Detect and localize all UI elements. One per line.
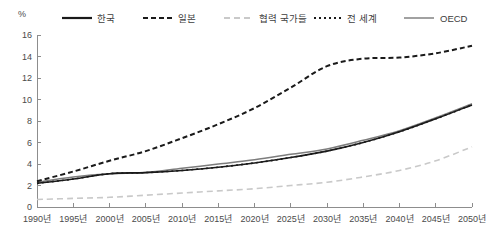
y-axis: 0246810121416 bbox=[22, 30, 41, 212]
x-tick-group bbox=[37, 203, 472, 207]
x-tick-label: 2050년 bbox=[458, 214, 486, 224]
y-tick-label: 0 bbox=[27, 202, 32, 212]
y-tick-label: 6 bbox=[27, 138, 32, 148]
y-tick-label: 14 bbox=[22, 52, 32, 62]
legend-item-3: 전 세계 bbox=[314, 13, 377, 24]
legend-item-4: OECD bbox=[404, 13, 468, 24]
y-axis-unit-label: % bbox=[18, 9, 26, 19]
x-tick-label: 2015년 bbox=[204, 214, 232, 224]
x-tick-label: 2045년 bbox=[422, 214, 450, 224]
legend-label-0: 한국 bbox=[97, 13, 115, 24]
x-tick-label: 1990년 bbox=[23, 214, 51, 224]
y-tick-label: 4 bbox=[27, 159, 32, 169]
legend-label-1: 일본 bbox=[178, 13, 196, 24]
legend-item-0: 한국 bbox=[62, 13, 115, 24]
chart-legend: 한국 일본 협력 국가들 전 세계 OECD bbox=[62, 13, 468, 24]
x-axis bbox=[37, 203, 472, 207]
legend-item-2: 협력 국가들 bbox=[224, 13, 307, 24]
y-tick-label: 10 bbox=[22, 95, 32, 105]
series-line-일본 bbox=[37, 46, 472, 181]
x-tick-label: 2035년 bbox=[349, 214, 377, 224]
line-chart: 한국 일본 협력 국가들 전 세계 OECD % 0246810121416 bbox=[0, 0, 487, 238]
series-line-OECD bbox=[37, 104, 472, 182]
series-line-협력 국가들 bbox=[37, 147, 472, 200]
x-tick-label-group: 1990년1995년2000년2005년2010년2015년2020년2025년… bbox=[23, 214, 486, 224]
y-tick-label: 12 bbox=[22, 73, 32, 83]
legend-label-4: OECD bbox=[440, 13, 468, 24]
x-tick-label: 2040년 bbox=[385, 214, 413, 224]
x-tick-label: 2020년 bbox=[240, 214, 268, 224]
series-group bbox=[37, 46, 472, 200]
legend-label-3: 전 세계 bbox=[347, 13, 377, 24]
x-tick-label: 2010년 bbox=[168, 214, 196, 224]
x-tick-label: 2005년 bbox=[132, 214, 160, 224]
y-tick-label: 16 bbox=[22, 30, 32, 40]
x-tick-label: 1995년 bbox=[59, 214, 87, 224]
y-tick-group: 0246810121416 bbox=[22, 30, 41, 212]
chart-container: 한국 일본 협력 국가들 전 세계 OECD % 0246810121416 bbox=[0, 0, 487, 238]
x-tick-label: 2030년 bbox=[313, 214, 341, 224]
y-tick-label: 2 bbox=[27, 181, 32, 191]
series-line-한국 bbox=[37, 105, 472, 183]
x-tick-label: 2000년 bbox=[95, 214, 123, 224]
series-line-전 세계 bbox=[37, 105, 472, 183]
legend-item-1: 일본 bbox=[143, 13, 196, 24]
y-tick-label: 8 bbox=[27, 116, 32, 126]
legend-label-2: 협력 국가들 bbox=[259, 13, 307, 24]
x-tick-label: 2025년 bbox=[277, 214, 305, 224]
